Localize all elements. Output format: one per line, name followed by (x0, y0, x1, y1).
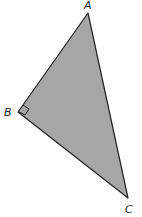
vertex-label-c: C (125, 203, 133, 216)
vertex-label-b: B (4, 106, 12, 119)
vertex-label-a: A (83, 0, 92, 12)
triangle-diagram: A B C (0, 0, 142, 217)
triangle-abc (18, 13, 128, 198)
